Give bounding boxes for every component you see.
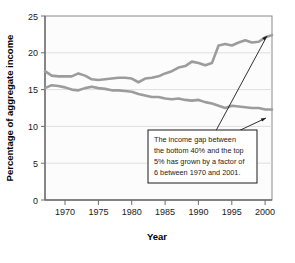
x-tick-label-1980: 1980 [122, 207, 142, 217]
chart-figure: 0 5 10 15 20 25 1970 1975 1980 1985 1990… [0, 0, 295, 263]
x-tick-label-1985: 1985 [155, 207, 175, 217]
x-tick-label-1990: 1990 [188, 207, 208, 217]
callout-line-2: the bottom 40% and the top [154, 146, 244, 155]
x-tick-label-1995: 1995 [222, 207, 242, 217]
y-axis-title: Percentage of aggregate income [4, 35, 15, 182]
x-tick-label-2000: 2000 [255, 207, 275, 217]
income-distribution-line-chart: 0 5 10 15 20 25 1970 1975 1980 1985 1990… [0, 0, 295, 263]
y-tick-label-15: 15 [28, 85, 38, 95]
y-tick-label-10: 10 [28, 122, 38, 132]
x-axis-title: Year [147, 231, 167, 242]
callout-line-3: 5% has grown by a factor of [154, 157, 245, 166]
y-tick-label-5: 5 [33, 159, 38, 169]
y-tick-label-25: 25 [28, 12, 38, 22]
callout-line-1: The income gap between [154, 135, 236, 144]
callout-line-4: 6 between 1970 and 2001. [154, 168, 240, 177]
y-tick-label-0: 0 [33, 196, 38, 206]
y-tick-label-20: 20 [28, 48, 38, 58]
x-tick-label-1970: 1970 [55, 207, 75, 217]
x-tick-label-1975: 1975 [88, 207, 108, 217]
